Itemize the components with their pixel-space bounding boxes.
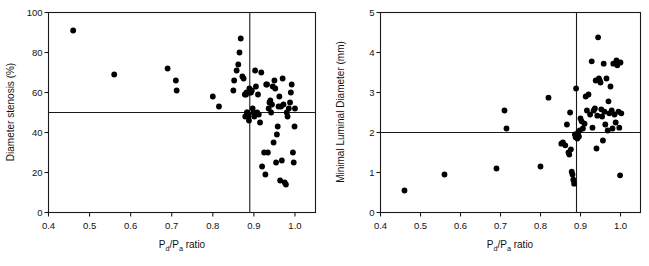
data-points-left (70, 28, 298, 188)
data-point (259, 164, 265, 170)
x-axis-ticks-left (49, 213, 295, 217)
data-point (594, 146, 600, 152)
reference-lines-right (381, 13, 641, 213)
y-tick-label: 0 (37, 207, 42, 218)
data-point (601, 61, 607, 67)
x-axis-title-left: Pd/Pa ratio (159, 239, 206, 253)
x-axis-title-right: Pd/Pa ratio (487, 239, 534, 253)
data-point (265, 150, 271, 156)
x-tick-label: 0.5 (414, 220, 427, 231)
data-points-right (402, 34, 625, 193)
data-point (616, 125, 622, 131)
x-axis-tick-labels-left: 0.40.50.60.70.80.91.0 (42, 220, 302, 231)
data-point (290, 150, 296, 156)
data-point (566, 152, 572, 158)
y-axis-tick-labels-left: 020406080100 (27, 7, 43, 218)
data-point (610, 126, 616, 132)
data-point (285, 114, 291, 120)
data-point (618, 60, 624, 66)
x-tick-label: 0.4 (374, 220, 387, 231)
y-tick-label: 20 (32, 167, 43, 178)
data-point (567, 110, 573, 116)
data-point (442, 172, 448, 178)
data-point (562, 142, 568, 148)
data-point (111, 72, 117, 78)
data-point (174, 88, 180, 94)
data-point (402, 188, 408, 194)
data-point (258, 70, 264, 76)
data-point (287, 100, 293, 106)
data-point (231, 78, 237, 84)
panel-minimal-luminal-diameter: 012345 0.40.50.60.70.80.91.0 Minimal Lum… (322, 0, 647, 266)
data-point (564, 122, 570, 128)
x-tick-label: 1.0 (614, 220, 627, 231)
x-tick-label: 0.7 (494, 220, 507, 231)
data-point (586, 92, 592, 98)
x-tick-label: 0.4 (42, 220, 55, 231)
data-point (235, 62, 241, 68)
data-point (272, 86, 278, 92)
y-tick-label: 1 (369, 167, 374, 178)
x-axis-tick-labels-right: 0.40.50.60.70.80.91.0 (374, 220, 627, 231)
x-title-tail: ratio (183, 239, 206, 250)
x-tick-label: 1.0 (288, 220, 301, 231)
data-point (618, 110, 624, 116)
data-point (274, 132, 280, 138)
data-point (283, 182, 289, 188)
data-point (216, 104, 222, 110)
data-point (256, 112, 262, 118)
data-point (262, 172, 268, 178)
y-tick-label: 4 (369, 47, 374, 58)
data-point (504, 126, 510, 132)
y-tick-label: 3 (369, 87, 374, 98)
svg-text:Pd/Pa ratio: Pd/Pa ratio (159, 239, 206, 253)
data-point (595, 34, 601, 40)
x-tick-label: 0.6 (454, 220, 467, 231)
y-tick-label: 40 (32, 127, 43, 138)
data-point (279, 158, 285, 164)
data-point (573, 86, 579, 92)
data-point (271, 140, 277, 146)
data-point (568, 146, 574, 152)
y-axis-ticks-right (377, 13, 381, 213)
x-tick-label: 0.6 (124, 220, 137, 231)
data-point (590, 125, 596, 131)
x-title-tail: ratio (511, 239, 534, 250)
data-point (288, 90, 294, 96)
data-point (286, 106, 292, 112)
data-point (502, 108, 508, 114)
data-point (252, 68, 258, 74)
data-point (289, 82, 295, 88)
data-point (281, 102, 287, 108)
data-point (273, 160, 279, 166)
y-tick-label: 5 (369, 7, 374, 18)
figure-two-panel-scatter: 020406080100 0.40.50.60.70.80.91.0 Diame… (0, 0, 649, 266)
data-point (257, 120, 263, 126)
y-axis-title-left: Diameter stenosis (%) (5, 63, 16, 161)
panel-diameter-stenosis: 020406080100 0.40.50.60.70.80.91.0 Diame… (0, 0, 325, 266)
y-axis-title-right: Minimal Luminal Diameter (mm) (335, 41, 346, 183)
y-tick-label: 0 (369, 207, 374, 218)
data-point (272, 78, 278, 84)
scatter-svg-left: 020406080100 0.40.50.60.70.80.91.0 Diame… (0, 0, 325, 266)
data-point (582, 121, 588, 127)
y-axis-tick-labels-right: 012345 (369, 7, 374, 218)
data-point (617, 172, 623, 178)
data-point (173, 78, 179, 84)
data-point (546, 95, 552, 101)
data-point (589, 58, 595, 64)
data-point (538, 164, 544, 170)
data-point (606, 98, 612, 104)
data-point (280, 76, 286, 82)
data-point (238, 36, 244, 42)
data-point (494, 166, 500, 172)
data-point (234, 68, 240, 74)
data-point (165, 66, 171, 72)
x-tick-label: 0.8 (534, 220, 547, 231)
data-point (269, 102, 275, 108)
data-point (268, 110, 274, 116)
y-tick-label: 2 (369, 127, 374, 138)
data-point (602, 122, 608, 128)
y-tick-label: 80 (32, 47, 43, 58)
y-tick-label: 100 (27, 7, 43, 18)
